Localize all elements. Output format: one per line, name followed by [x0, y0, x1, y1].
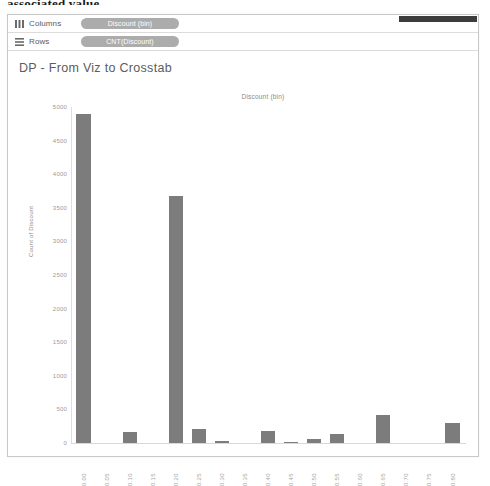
x-tick-label: 0.10 [127, 447, 133, 486]
x-axis-line [71, 443, 466, 444]
x-tick-slot: 0.10 [118, 446, 141, 486]
y-tick-label: 0 [63, 440, 67, 446]
x-tick-slot: 0.45 [280, 446, 303, 486]
y-axis-title: Count of Discount [28, 206, 34, 257]
x-tick-slot: 0.20 [164, 446, 187, 486]
x-tick-slot: 0.75 [418, 446, 441, 486]
x-tick-label: 0.55 [334, 447, 340, 486]
bar-slot[interactable] [257, 107, 280, 443]
x-tick-slot: 0.50 [303, 446, 326, 486]
bar-slot[interactable] [233, 107, 256, 443]
bar[interactable] [192, 429, 206, 443]
bar-slot[interactable] [141, 107, 164, 443]
x-tick-slot: 0.25 [187, 446, 210, 486]
bar-slot[interactable] [418, 107, 441, 443]
pill-cnt-discount[interactable]: CNT(Discount) [81, 36, 179, 47]
rows-shelf-label: Rows [29, 37, 81, 46]
x-tick-label: 0.00 [81, 447, 87, 486]
x-axis-ticks: 0.000.050.100.150.200.250.300.350.400.45… [72, 446, 464, 486]
y-tick-label: 1500 [53, 339, 67, 345]
x-tick-slot: 0.60 [349, 446, 372, 486]
y-tick-label: 5000 [53, 104, 67, 110]
bar-slot[interactable] [441, 107, 464, 443]
bar-slot[interactable] [280, 107, 303, 443]
x-tick-label: 0.15 [150, 447, 156, 486]
clipped-heading: associated value. [7, 0, 207, 5]
bar-slot[interactable] [95, 107, 118, 443]
bar-slot[interactable] [72, 107, 95, 443]
bar-slot[interactable] [395, 107, 418, 443]
viz-body: DP - From Viz to Crosstab Discount (bin)… [8, 51, 478, 457]
bar-slot[interactable] [372, 107, 395, 443]
y-tick-label: 2000 [53, 306, 67, 312]
bar[interactable] [261, 431, 275, 443]
x-tick-slot: 0.15 [141, 446, 164, 486]
x-tick-label: 0.30 [219, 447, 225, 486]
page-title: DP - From Viz to Crosstab [19, 61, 172, 75]
bar[interactable] [76, 114, 90, 443]
y-tick-label: 1000 [53, 373, 67, 379]
x-tick-label: 0.65 [380, 447, 386, 486]
x-tick-label: 0.20 [173, 447, 179, 486]
x-tick-slot: 0.00 [72, 446, 95, 486]
bar[interactable] [169, 196, 183, 443]
columns-shelf-label: Columns [29, 19, 81, 28]
x-tick-slot: 0.80 [441, 446, 464, 486]
bar[interactable] [284, 442, 298, 443]
y-axis-ticks: 5000450040003500300025002000150010005000 [36, 107, 70, 443]
rows-shelf[interactable]: Rows CNT(Discount) [8, 33, 478, 51]
x-tick-label: 0.70 [403, 447, 409, 486]
viz-card: Columns Discount (bin) Rows CNT(Discount… [7, 14, 479, 457]
x-tick-label: 0.75 [426, 447, 432, 486]
x-tick-slot: 0.55 [326, 446, 349, 486]
plot-area: Count of Discount 5000450040003500300025… [28, 107, 466, 457]
bar[interactable] [215, 441, 229, 443]
rows-icon [14, 37, 25, 47]
bar-slot[interactable] [349, 107, 372, 443]
x-tick-label: 0.35 [242, 447, 248, 486]
bar[interactable] [376, 415, 390, 443]
y-tick-label: 2500 [53, 272, 67, 278]
y-tick-label: 3500 [53, 205, 67, 211]
toolbar-sliver [399, 16, 477, 22]
y-tick-label: 500 [56, 406, 67, 412]
x-tick-slot: 0.35 [233, 446, 256, 486]
column-field-header: Discount (bin) [8, 93, 478, 100]
x-tick-label: 0.40 [265, 447, 271, 486]
y-tick-label: 4500 [53, 138, 67, 144]
x-tick-label: 0.05 [104, 447, 110, 486]
pill-discount-bin[interactable]: Discount (bin) [81, 18, 179, 29]
x-tick-label: 0.80 [450, 447, 456, 486]
x-tick-slot: 0.40 [257, 446, 280, 486]
bar-series [72, 107, 464, 443]
bar-slot[interactable] [326, 107, 349, 443]
bar-slot[interactable] [187, 107, 210, 443]
bar-slot[interactable] [164, 107, 187, 443]
bar[interactable] [307, 439, 321, 443]
bar-slot[interactable] [210, 107, 233, 443]
x-tick-slot: 0.05 [95, 446, 118, 486]
bar-slot[interactable] [118, 107, 141, 443]
bar-slot[interactable] [303, 107, 326, 443]
x-tick-label: 0.50 [311, 447, 317, 486]
bar[interactable] [445, 423, 459, 443]
y-tick-label: 3000 [53, 238, 67, 244]
x-tick-label: 0.45 [288, 447, 294, 486]
bar[interactable] [330, 434, 344, 443]
x-tick-slot: 0.70 [395, 446, 418, 486]
x-tick-slot: 0.30 [210, 446, 233, 486]
rows-shelf-dropzone[interactable] [179, 33, 478, 50]
columns-icon [14, 19, 25, 29]
bar[interactable] [123, 432, 137, 443]
x-tick-label: 0.60 [357, 447, 363, 486]
x-tick-slot: 0.65 [372, 446, 395, 486]
y-tick-label: 4000 [53, 171, 67, 177]
x-tick-label: 0.25 [196, 447, 202, 486]
